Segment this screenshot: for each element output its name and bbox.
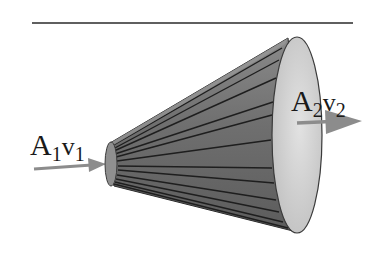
inlet-area-subscript: 1 (52, 143, 62, 165)
outlet-velocity-subscript: 2 (336, 99, 346, 121)
outlet-velocity-symbol: v (323, 88, 336, 117)
outlet-area-symbol: A (291, 84, 313, 117)
inlet-velocity-subscript: 1 (75, 143, 85, 165)
inlet-area-symbol: A (30, 128, 52, 161)
outlet-area-subscript: 2 (313, 99, 323, 121)
outlet-label: A2v2 (291, 86, 346, 116)
flow-continuity-diagram: A1v1 A2v2 (0, 0, 389, 266)
inlet-label: A1v1 (30, 130, 85, 160)
outlet-opening (272, 37, 322, 233)
inlet-opening (105, 142, 117, 186)
pipe-frustum (105, 38, 298, 232)
inlet-velocity-symbol: v (62, 132, 75, 161)
